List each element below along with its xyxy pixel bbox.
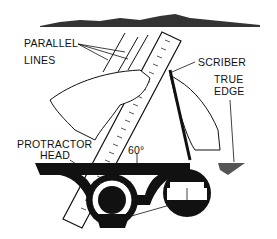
true-edge-leader [230,100,234,162]
parallel-lines [103,33,148,72]
label-parallel: PARALLEL [24,38,78,49]
label-edge: EDGE [214,86,245,97]
true-edge-workpiece [218,163,245,175]
parallel-leaders [78,44,128,60]
right-hand [170,75,220,150]
label-scriber: SCRIBER [198,57,246,68]
label-head: HEAD [40,150,70,161]
illustration [0,0,277,239]
label-lines: LINES [24,55,55,66]
label-true: TRUE [214,74,243,85]
scriber-leader [172,62,195,72]
label-angle: 60° [128,145,144,156]
horizon-silhouette [40,14,260,27]
